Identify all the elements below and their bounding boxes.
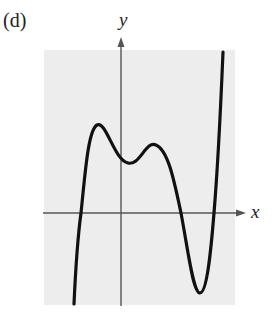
plot-canvas xyxy=(0,0,273,329)
function-graph: (d) y x xyxy=(0,0,273,329)
x-axis-arrow-icon xyxy=(236,210,246,217)
plot-background xyxy=(44,50,235,305)
y-axis-arrow-icon xyxy=(118,37,125,47)
